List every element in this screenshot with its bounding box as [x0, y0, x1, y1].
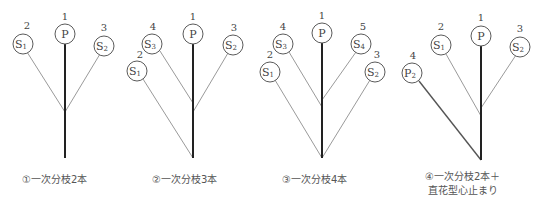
svg-text:P: P [318, 27, 326, 40]
panel-1: P 1 S1 2 S2 3 [13, 11, 114, 158]
node-p: P 1 [55, 11, 75, 44]
node-number: 4 [280, 21, 286, 32]
branch-s4 [322, 52, 356, 100]
node-number: 4 [150, 21, 156, 32]
node-number: 2 [438, 21, 444, 32]
node-p2: P2 4 [402, 50, 422, 83]
branch-s1 [27, 52, 65, 112]
caption-panel-1: ①一次分枝2本 [22, 173, 87, 187]
branch-s1 [275, 80, 322, 158]
node-s2: S2 3 [510, 23, 530, 57]
node-s1: S1 2 [127, 49, 147, 81]
svg-text:P: P [477, 30, 485, 43]
node-number: 1 [478, 12, 484, 23]
node-s4: S4 5 [351, 21, 371, 54]
branch-s2 [481, 55, 516, 108]
branch-s3 [289, 52, 322, 107]
node-s1: S1 2 [431, 21, 451, 55]
caption-panel-3: ③一次分枝4本 [282, 173, 347, 187]
node-number: 1 [190, 11, 196, 22]
node-p: P 1 [471, 12, 491, 46]
branch-s1 [446, 54, 481, 116]
node-number: 3 [374, 49, 380, 60]
node-s1: S1 2 [13, 20, 33, 54]
node-number: 1 [62, 11, 68, 22]
node-number: 3 [517, 23, 523, 34]
branch-s2 [322, 80, 370, 158]
node-p: P 1 [183, 11, 203, 44]
branch-s2 [193, 53, 228, 112]
node-s2: S2 3 [94, 22, 114, 56]
caption-panel-2: ②一次分枝3本 [152, 173, 217, 187]
node-number: 1 [319, 10, 325, 21]
node-s3: S3 4 [273, 21, 293, 54]
node-number: 2 [24, 20, 30, 31]
node-s3: S3 4 [142, 21, 162, 54]
node-number: 4 [410, 50, 416, 61]
node-number: 3 [231, 22, 237, 33]
caption-panel-4: ④一次分枝2本＋ 直花型心止まり [425, 170, 500, 198]
panel-2: P 1 S1 2 S2 3 S3 4 [127, 11, 243, 158]
node-p: P 1 [312, 10, 332, 43]
node-s2: S2 3 [365, 49, 385, 82]
branch-p2 [419, 81, 481, 160]
panel-4: P 1 S1 2 S2 3 P2 4 [402, 12, 530, 160]
caption-panel-4-line-1: ④一次分枝2本＋ [425, 170, 500, 184]
node-number: 2 [137, 49, 143, 60]
svg-text:P: P [61, 28, 69, 41]
node-number: 5 [360, 21, 366, 32]
svg-text:P: P [189, 28, 197, 41]
node-s1: S1 2 [260, 49, 280, 82]
panel-3: P 1 S1 2 S2 3 S3 4 S4 5 [260, 10, 385, 158]
node-number: 3 [101, 22, 107, 33]
branch-s2 [65, 54, 100, 112]
node-s2: S2 3 [223, 22, 243, 55]
caption-panel-4-line-2: 直花型心止まり [425, 184, 500, 198]
node-number: 2 [267, 49, 273, 60]
branch-s3 [160, 51, 193, 103]
